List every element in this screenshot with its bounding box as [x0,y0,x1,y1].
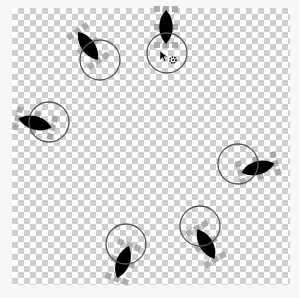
mouse-pointer-icon [160,51,168,62]
resize-handle[interactable] [219,251,227,259]
resize-handle[interactable] [16,106,23,113]
sprite-leaf-5[interactable] [180,206,227,268]
resize-handle[interactable] [154,6,160,12]
rotation-pivot-icon[interactable] [170,57,176,63]
resize-handle[interactable] [154,24,160,30]
sprite-leaf-3[interactable] [12,102,69,142]
resize-handle[interactable] [269,151,276,158]
resize-handle[interactable] [117,238,125,246]
resize-handle[interactable] [185,229,193,237]
resize-handle[interactable] [121,278,129,286]
resize-handle[interactable] [274,168,281,175]
sprite-leaf-6[interactable] [105,224,146,286]
resize-handle[interactable] [105,272,113,280]
resize-handle[interactable] [87,62,95,70]
resize-handle[interactable] [172,42,178,48]
resize-handle[interactable] [134,244,142,252]
sprite-leaf-2[interactable] [147,6,187,73]
sprite-leaf-4[interactable] [218,144,281,185]
resize-handle[interactable] [66,32,74,40]
resize-handle[interactable] [203,260,211,268]
resize-handle[interactable] [12,123,19,130]
resize-handle[interactable] [201,220,209,228]
resize-handle[interactable] [51,115,58,122]
resize-handle[interactable] [102,51,110,59]
resize-handle[interactable] [235,160,242,167]
resize-handle[interactable] [81,22,89,30]
resize-handle[interactable] [172,6,178,12]
sprite-layer [0,0,299,298]
sprite-leaf-1[interactable] [66,22,120,80]
sprite-stage [0,0,299,298]
resize-handle[interactable] [46,133,53,140]
resize-handle[interactable] [172,24,178,30]
leaf-shape-icon[interactable] [159,10,173,44]
resize-handle[interactable] [154,42,160,48]
